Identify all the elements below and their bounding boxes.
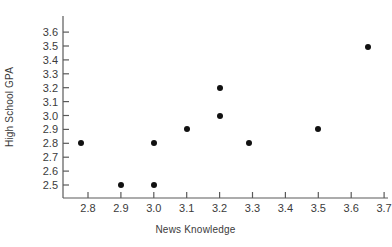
x-tick-label: 3.7 bbox=[376, 202, 391, 214]
x-tick-label: 3.4 bbox=[278, 202, 293, 214]
y-tick-label: 3.0 bbox=[22, 110, 58, 122]
x-tick-label: 3.5 bbox=[311, 202, 326, 214]
data-point bbox=[246, 140, 252, 146]
y-tick-label: 2.5 bbox=[22, 179, 58, 191]
x-tick-label: 3.2 bbox=[212, 202, 227, 214]
x-tick-label: 3.0 bbox=[146, 202, 161, 214]
data-point bbox=[217, 113, 223, 119]
y-axis-title-text: High School GPA bbox=[4, 67, 15, 147]
x-tick-label: 3.6 bbox=[344, 202, 359, 214]
y-tick-label: 3.3 bbox=[22, 68, 58, 80]
x-axis-title: News Knowledge bbox=[0, 224, 391, 235]
data-point bbox=[151, 140, 157, 146]
y-tick-label: 3.1 bbox=[22, 96, 58, 108]
x-tick-label: 3.3 bbox=[245, 202, 260, 214]
y-tick-label: 2.9 bbox=[22, 123, 58, 135]
y-tick-label: 3.4 bbox=[22, 54, 58, 66]
y-axis-title: High School GPA bbox=[2, 52, 16, 162]
data-point bbox=[118, 182, 124, 188]
x-tick-label: 2.9 bbox=[113, 202, 128, 214]
y-tick-label: 3.5 bbox=[22, 40, 58, 52]
y-tick-label: 2.8 bbox=[22, 137, 58, 149]
data-point bbox=[184, 126, 190, 132]
y-tick-label: 2.7 bbox=[22, 151, 58, 163]
y-tick-label: 3.6 bbox=[22, 26, 58, 38]
y-tick-label: 2.6 bbox=[22, 165, 58, 177]
data-point bbox=[315, 126, 321, 132]
data-point bbox=[365, 44, 371, 50]
x-tick-label: 2.8 bbox=[80, 202, 95, 214]
data-point bbox=[217, 85, 223, 91]
data-point bbox=[151, 182, 157, 188]
data-point bbox=[78, 140, 84, 146]
x-tick-label: 3.1 bbox=[179, 202, 194, 214]
y-tick-label: 3.2 bbox=[22, 82, 58, 94]
